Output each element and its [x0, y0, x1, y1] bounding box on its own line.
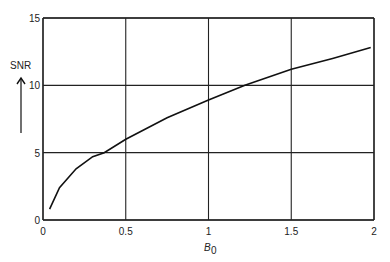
chart: 00.511.52051015 SNR B 0: [0, 0, 390, 262]
svg-text:15: 15: [29, 13, 41, 24]
plot-area: [43, 18, 374, 220]
svg-text:0.5: 0.5: [119, 226, 133, 237]
svg-text:2: 2: [371, 226, 377, 237]
svg-text:0: 0: [40, 226, 46, 237]
svg-text:0: 0: [211, 245, 217, 256]
svg-text:1.5: 1.5: [284, 226, 298, 237]
svg-text:5: 5: [34, 148, 40, 159]
x-axis-label: B 0: [204, 242, 217, 256]
svg-text:0: 0: [34, 215, 40, 226]
snr-curve: [50, 48, 371, 210]
svg-text:1: 1: [206, 226, 212, 237]
y-axis-label: SNR: [10, 60, 31, 133]
tick-labels: 00.511.52051015: [29, 13, 377, 237]
svg-text:10: 10: [29, 80, 41, 91]
svg-text:B: B: [204, 242, 211, 253]
svg-text:SNR: SNR: [10, 60, 31, 71]
